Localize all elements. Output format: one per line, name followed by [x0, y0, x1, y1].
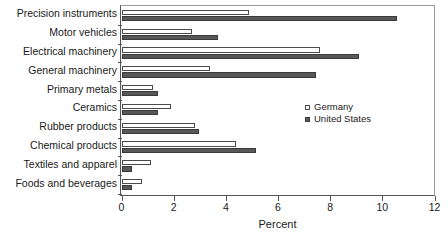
bar-united-states: [122, 35, 219, 40]
y-axis-tick: [118, 100, 122, 101]
bar-germany: [122, 66, 211, 71]
bar-united-states: [122, 129, 199, 134]
legend-item-united-states: United States: [305, 113, 371, 125]
x-axis-tick: [226, 196, 227, 201]
bar-united-states: [122, 185, 132, 190]
legend-swatch-united-states-icon: [305, 117, 310, 122]
x-axis-tick-label: 6: [263, 201, 293, 213]
bar-united-states: [122, 148, 256, 153]
bar-germany: [122, 141, 237, 146]
bar-united-states: [122, 72, 316, 77]
x-axis-tick-label: 10: [367, 201, 397, 213]
category-label: Precision instruments: [0, 8, 117, 19]
y-axis-tick: [118, 194, 122, 195]
bar-germany: [122, 104, 172, 109]
category-label: Primary metals: [0, 84, 117, 95]
category-label: Textiles and apparel: [0, 159, 117, 170]
category-label: General machinery: [0, 65, 117, 76]
category-label: Ceramics: [0, 102, 117, 113]
category-label: Rubber products: [0, 121, 117, 132]
bar-united-states: [122, 16, 397, 21]
category-label: Foods and beverages: [0, 178, 117, 189]
bars-layer: [122, 7, 435, 195]
category-label: Chemical products: [0, 140, 117, 151]
legend-swatch-germany-icon: [305, 105, 310, 110]
bar-united-states: [122, 110, 159, 115]
y-axis-tick: [118, 81, 122, 82]
x-axis-title: Percent: [120, 218, 435, 230]
y-axis-tick: [118, 62, 122, 63]
bar-united-states: [122, 91, 159, 96]
x-axis-tick: [278, 196, 279, 201]
legend-label-germany: Germany: [314, 101, 353, 113]
x-axis-tick-label: 4: [211, 201, 241, 213]
category-label: Electrical machinery: [0, 46, 117, 57]
x-axis-tick: [330, 196, 331, 201]
bar-germany: [122, 85, 153, 90]
legend-item-germany: Germany: [305, 101, 371, 113]
bar-germany: [122, 179, 143, 184]
y-axis-tick: [118, 138, 122, 139]
category-axis: Precision instrumentsMotor vehiclesElect…: [0, 5, 117, 196]
x-axis-tick: [122, 196, 123, 201]
legend-label-united-states: United States: [314, 113, 371, 125]
bar-germany: [122, 123, 195, 128]
legend: Germany United States: [305, 101, 371, 125]
bar-chart: Precision instrumentsMotor vehiclesElect…: [0, 0, 448, 239]
bar-germany: [122, 47, 320, 52]
x-axis-tick-label: 0: [107, 201, 137, 213]
bar-germany: [122, 29, 192, 34]
x-axis-tick: [382, 196, 383, 201]
bar-germany: [122, 160, 152, 165]
x-axis-tick: [435, 196, 436, 201]
y-axis-tick: [118, 44, 122, 45]
y-axis-tick: [118, 119, 122, 120]
x-axis-tick-label: 12: [420, 201, 448, 213]
x-axis-tick-labels: 024681012: [0, 201, 448, 215]
bar-germany: [122, 10, 250, 15]
y-axis-tick: [118, 25, 122, 26]
x-axis-tick: [174, 196, 175, 201]
y-axis-tick: [118, 156, 122, 157]
bar-united-states: [122, 54, 359, 59]
x-axis-tick-label: 2: [159, 201, 189, 213]
x-axis-tick-label: 8: [315, 201, 345, 213]
category-label: Motor vehicles: [0, 27, 117, 38]
y-axis-tick: [118, 175, 122, 176]
bar-united-states: [122, 166, 133, 171]
